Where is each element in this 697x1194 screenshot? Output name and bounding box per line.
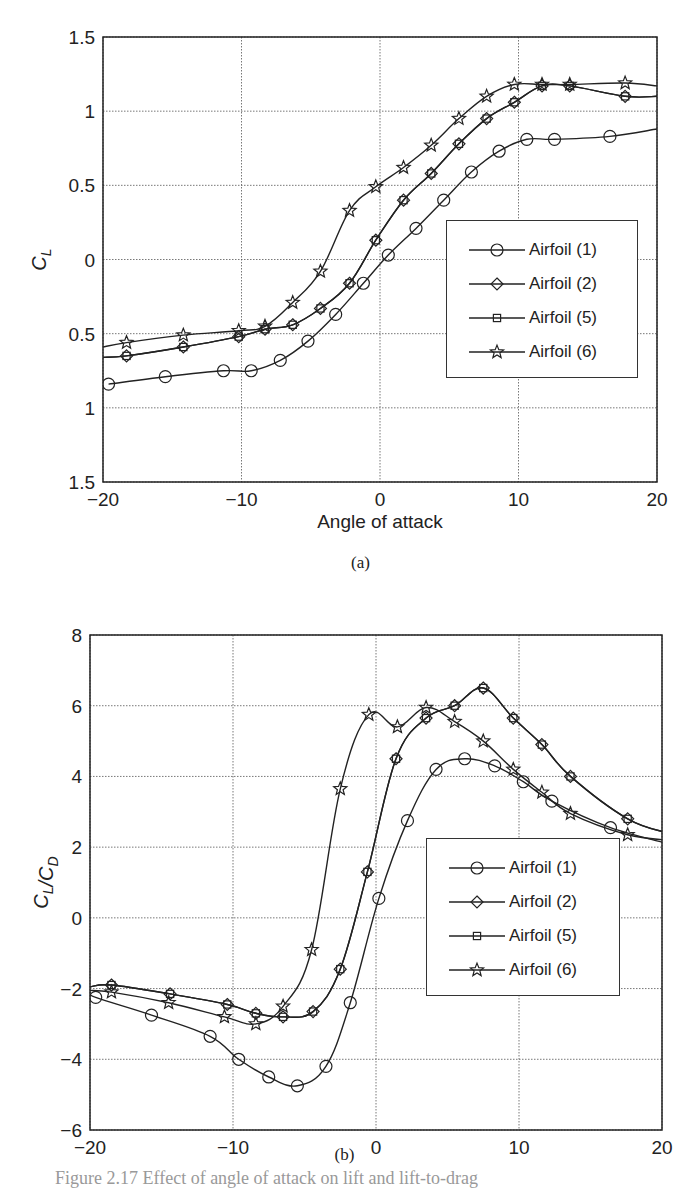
panel-b-caption: (b) — [0, 1145, 693, 1165]
y-tick-label: 1.5 — [69, 27, 95, 48]
y-tick-label: 0.5 — [69, 324, 95, 345]
chart-panel-b: −20−100102086420−2−4−6Angle of attackCL/… — [0, 600, 697, 1160]
x-tick-label: 20 — [646, 489, 667, 510]
legend-item: Airfoil (6) — [427, 955, 577, 985]
legend-item: Airfoil (5) — [447, 303, 597, 333]
legend-a: Airfoil (1)Airfoil (2)Airfoil (5)Airfoil… — [446, 220, 638, 378]
legend-item: Airfoil (6) — [447, 337, 597, 367]
y-tick-label: 1 — [84, 398, 95, 419]
panel-a-caption: (a) — [12, 553, 697, 573]
square-marker-icon — [449, 926, 505, 946]
figure-caption: Figure 2.17 Effect of angle of attack on… — [55, 1168, 478, 1189]
diamond-marker-icon — [469, 274, 525, 294]
square-marker-icon — [469, 308, 525, 328]
y-tick-label: 8 — [71, 625, 82, 646]
legend-item: Airfoil (5) — [427, 921, 577, 951]
circle-marker-icon — [449, 858, 505, 878]
legend-label: Airfoil (2) — [529, 274, 597, 294]
y-tick-label: 1 — [84, 101, 95, 122]
y-tick-label: −6 — [60, 1120, 82, 1141]
legend-item: Airfoil (2) — [427, 887, 577, 917]
legend-label: Airfoil (5) — [509, 926, 577, 946]
y-tick-label: 0 — [71, 908, 82, 929]
legend-b: Airfoil (1)Airfoil (2)Airfoil (5)Airfoil… — [426, 838, 620, 996]
star-marker-icon — [469, 342, 525, 362]
y-tick-label: 2 — [71, 837, 82, 858]
y-tick-label: 1.5 — [69, 472, 95, 493]
x-tick-label: 0 — [375, 489, 386, 510]
legend-item: Airfoil (1) — [427, 853, 577, 883]
diamond-marker-icon — [449, 892, 505, 912]
chart-panel-a: −20−10010201.510.500.511.5Angle of attac… — [0, 0, 697, 590]
y-tick-label: 0.5 — [69, 175, 95, 196]
y-tick-label: 0 — [84, 250, 95, 271]
y-tick-label: −4 — [60, 1049, 82, 1070]
legend-label: Airfoil (5) — [529, 308, 597, 328]
y-tick-label: 4 — [71, 766, 82, 787]
y-tick-label: −2 — [60, 979, 82, 1000]
x-axis-label: Angle of attack — [317, 511, 443, 532]
legend-label: Airfoil (2) — [509, 892, 577, 912]
legend-item: Airfoil (2) — [447, 269, 597, 299]
y-axis-label: CL/CD — [30, 856, 61, 908]
legend-label: Airfoil (6) — [509, 960, 577, 980]
y-tick-label: 6 — [71, 696, 82, 717]
x-tick-label: 10 — [508, 489, 529, 510]
legend-label: Airfoil (1) — [509, 858, 577, 878]
star-marker-icon — [449, 960, 505, 980]
legend-label: Airfoil (6) — [529, 342, 597, 362]
y-axis-label: CL — [28, 248, 54, 270]
legend-label: Airfoil (1) — [529, 240, 597, 260]
x-tick-label: −10 — [225, 489, 257, 510]
circle-marker-icon — [469, 240, 525, 260]
legend-item: Airfoil (1) — [447, 235, 597, 265]
